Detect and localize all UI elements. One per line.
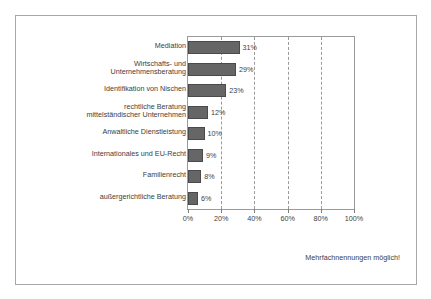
x-tick [288,209,289,213]
bar [188,170,201,183]
x-tick-label: 20% [214,214,228,223]
bar-row: 10% [188,127,222,140]
x-tick-label: 40% [247,214,261,223]
bar-value-label: 31% [243,43,257,52]
x-axis: 0% 20% 40% 60% 80% 100% [187,209,355,229]
gridline-80 [321,37,322,209]
x-tick-label: 100% [345,214,363,223]
bar-row: 8% [188,170,215,183]
x-tick-label: 0% [183,214,193,223]
bar [188,41,240,54]
category-label: Internationales und EU-Recht [36,144,186,166]
x-tick [254,209,255,213]
bar-value-label: 6% [201,194,211,203]
bar [188,149,203,162]
bar-value-label: 29% [239,65,253,74]
bar-row: 31% [188,41,257,54]
bar [188,127,205,140]
x-tick [188,209,189,213]
category-label: Familienrecht [36,165,186,187]
category-axis: Mediation Wirtschafts- und Unternehmensb… [36,36,186,208]
bar-chart: Mediation Wirtschafts- und Unternehmensb… [16,16,418,286]
bar-row: 12% [188,106,225,119]
category-label: außergerichtliche Beratung [36,187,186,209]
category-label: Mediation [36,36,186,58]
bar [188,84,226,97]
footnote: Mehrfachnennungen möglich! [305,253,400,262]
bar [188,106,208,119]
category-label: Wirtschafts- und Unternehmensberatung [36,58,186,80]
bar-row: 23% [188,84,244,97]
bar-value-label: 23% [229,86,243,95]
figure-frame: Mediation Wirtschafts- und Unternehmensb… [15,15,417,285]
plot-area: 31% 29% 23% 12% 10% 9% [187,36,355,210]
category-label: rechtliche Beratung mittelständischer Un… [36,101,186,123]
bar-row: 6% [188,192,211,205]
x-tick [321,209,322,213]
category-label: Anwaltliche Dienstleistung [36,122,186,144]
bar-value-label: 12% [211,108,225,117]
x-tick-label: 60% [280,214,294,223]
gridline-60 [288,37,289,209]
x-tick [354,209,355,213]
bar-row: 9% [188,149,216,162]
bar [188,63,236,76]
x-tick-label: 80% [314,214,328,223]
bar-row: 29% [188,63,253,76]
bar [188,192,198,205]
bar-value-label: 8% [204,172,214,181]
bar-value-label: 10% [208,129,222,138]
x-tick [221,209,222,213]
category-label: Identifikation von Nischen [36,79,186,101]
gridline-40 [254,37,255,209]
bar-value-label: 9% [206,151,216,160]
